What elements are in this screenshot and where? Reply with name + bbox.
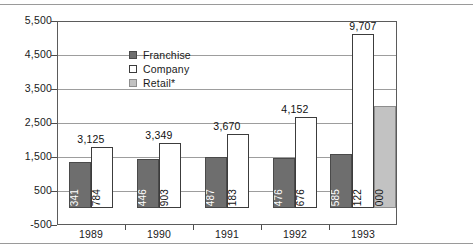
bar-value-label: 3,000 [375, 189, 385, 208]
legend-item-label: Company [143, 63, 189, 75]
y-axis-tick-label: -500 [6, 218, 52, 230]
legend-item-label: Franchise [143, 49, 191, 61]
group-total-label: 3,125 [56, 133, 126, 145]
bar-value-label: 1,903 [160, 189, 170, 208]
bar-company-1989: 1,784 [91, 147, 113, 208]
gridline [57, 89, 397, 90]
bar-value-label: 1,585 [331, 189, 341, 208]
bar-company-1992: 2,676 [295, 117, 317, 208]
y-axis-tick-mark [51, 225, 57, 226]
x-axis-tick-label: 1992 [261, 228, 329, 240]
y-axis-tick-label: 4,500 [6, 48, 52, 60]
x-axis-tick-label: 1990 [125, 228, 193, 240]
chart-legend: FranchiseCompanyRetail* [129, 48, 191, 90]
group-total-label: 4,152 [260, 103, 330, 115]
bar-franchise-1993: 1,585 [330, 154, 352, 208]
bar-chart-figure: -5005001,5002,5003,5004,5005,500 1989199… [0, 0, 473, 250]
group-total-label: 9,707 [328, 20, 398, 32]
bar-company-1991: 2,183 [227, 134, 249, 208]
bar-value-label: 1,784 [92, 189, 102, 208]
bar-company-1993: 5,122 [352, 34, 374, 208]
bar-value-label: 5,122 [353, 189, 363, 208]
top-border-rule [0, 4, 473, 5]
bar-value-label: 2,183 [228, 189, 238, 208]
legend-swatch-franchise-icon [129, 51, 137, 59]
bar-retail-1993: 3,000 [374, 106, 396, 208]
bar-value-label: 1,446 [138, 189, 148, 208]
x-axis-tick-label: 1991 [193, 228, 261, 240]
bar-value-label: 1,476 [274, 189, 284, 208]
y-axis-tick-label: 1,500 [6, 150, 52, 162]
group-total-label: 3,349 [124, 129, 194, 141]
bar-franchise-1990: 1,446 [137, 159, 159, 208]
bar-franchise-1992: 1,476 [273, 158, 295, 208]
y-axis-tick-label: 2,500 [6, 116, 52, 128]
legend-item-franchise: Franchise [129, 48, 191, 61]
y-axis-tick-label: 5,500 [6, 14, 52, 26]
legend-item-company: Company [129, 62, 191, 75]
gridline [57, 55, 397, 56]
x-axis-tick-label: 1993 [329, 228, 397, 240]
legend-item-retail: Retail* [129, 76, 191, 89]
plot-border-bottom [57, 224, 397, 225]
y-axis-tick-label: 3,500 [6, 82, 52, 94]
y-axis-tick-label: 500 [6, 184, 52, 196]
bar-company-1990: 1,903 [159, 143, 181, 208]
bar-value-label: 1,341 [70, 189, 80, 208]
plot-border-right [396, 21, 397, 225]
bar-value-label: 1,487 [206, 189, 216, 208]
legend-item-label: Retail* [143, 77, 175, 89]
bottom-border-rule [0, 243, 473, 244]
group-total-label: 3,670 [192, 120, 262, 132]
x-axis-tick-label: 1989 [57, 228, 125, 240]
bar-franchise-1989: 1,341 [69, 162, 91, 208]
bar-value-label: 2,676 [296, 189, 306, 208]
legend-swatch-company-icon [129, 65, 137, 73]
bar-franchise-1991: 1,487 [205, 157, 227, 208]
plot-border-left [57, 21, 58, 225]
legend-swatch-retail-icon [129, 79, 137, 87]
